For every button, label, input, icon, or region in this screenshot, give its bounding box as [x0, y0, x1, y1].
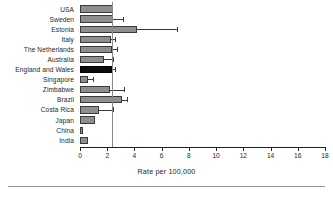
category-label: The Netherlands [0, 46, 74, 53]
x-axis-tick-label: 16 [294, 152, 301, 160]
x-axis-tick [298, 147, 299, 150]
error-bar-cap [113, 57, 114, 62]
error-bar [113, 19, 124, 20]
x-axis-tick-label: 18 [321, 152, 328, 160]
error-bar [88, 79, 93, 80]
bar [80, 15, 113, 22]
bar-track [80, 95, 325, 105]
bar-row: The Netherlands [0, 44, 333, 54]
bar-row: England and Wales [0, 65, 333, 75]
bar [80, 26, 137, 33]
bar-track [80, 85, 325, 95]
error-bar-cap [127, 97, 128, 102]
x-axis-tick-label: 8 [187, 152, 191, 160]
x-axis-tick [216, 147, 217, 150]
bar-track [80, 105, 325, 115]
error-bar [122, 99, 127, 100]
bar-track [80, 44, 325, 54]
category-label: Estonia [0, 26, 74, 33]
error-bar [137, 29, 178, 30]
bar-row: Brazil [0, 95, 333, 105]
category-label: Costa Rica [0, 106, 74, 113]
x-axis-tick [189, 147, 190, 150]
bar [80, 106, 99, 113]
category-label: England and Wales [0, 66, 74, 73]
bar [80, 137, 88, 144]
error-bar-cap [115, 37, 116, 42]
bar [80, 86, 110, 93]
bar [80, 127, 83, 134]
error-bar-cap [177, 27, 178, 32]
bar [80, 116, 95, 123]
footer-divider [8, 186, 325, 187]
bar-row: China [0, 125, 333, 135]
bar-track [80, 125, 325, 135]
bar-chart-figure: USASwedenEstoniaItalyThe NetherlandsAust… [0, 0, 333, 197]
bar [80, 76, 88, 83]
bar-row: Italy [0, 34, 333, 44]
bar-track [80, 14, 325, 24]
category-label: Zimbabwe [0, 86, 74, 93]
x-axis-tick-label: 2 [105, 152, 109, 160]
x-axis-tick-label: 12 [240, 152, 247, 160]
bar-row: Costa Rica [0, 105, 333, 115]
category-label: Singapore [0, 76, 74, 83]
category-label: China [0, 127, 74, 134]
x-axis-tick-label: 10 [212, 152, 219, 160]
bar-row: Australia [0, 54, 333, 64]
bar-rows: USASwedenEstoniaItalyThe NetherlandsAust… [0, 4, 333, 145]
bar [80, 96, 122, 103]
x-axis-tick [162, 147, 163, 150]
error-bar-cap [113, 107, 114, 112]
x-axis-line [80, 147, 325, 148]
x-axis-tick-label: 14 [267, 152, 274, 160]
category-label: Brazil [0, 96, 74, 103]
x-axis-tick-label: 0 [78, 152, 82, 160]
x-axis-tick [107, 147, 108, 150]
error-bar-cap [115, 67, 116, 72]
error-bar-line [137, 29, 178, 30]
x-axis-tick [243, 147, 244, 150]
category-label: USA [0, 6, 74, 13]
x-axis-tick [134, 147, 135, 150]
bar [80, 46, 112, 53]
error-bar-cap [123, 17, 124, 22]
bar-track [80, 65, 325, 75]
bar-track [80, 135, 325, 145]
bar-row: Singapore [0, 75, 333, 85]
error-bar-cap [117, 47, 118, 52]
bar-track [80, 54, 325, 64]
bar-row: Zimbabwe [0, 85, 333, 95]
x-axis-tick [325, 147, 326, 150]
bar-track [80, 4, 325, 14]
x-axis-tick-label: 4 [133, 152, 137, 160]
bar-row: Japan [0, 115, 333, 125]
bar-track [80, 115, 325, 125]
bar-track [80, 75, 325, 85]
category-label: Japan [0, 117, 74, 124]
x-axis-tick [271, 147, 272, 150]
plot-area: USASwedenEstoniaItalyThe NetherlandsAust… [0, 0, 333, 160]
category-label: Australia [0, 56, 74, 63]
bar-row: Sweden [0, 14, 333, 24]
bar [80, 36, 111, 43]
bar [80, 56, 104, 63]
category-label: Sweden [0, 16, 74, 23]
category-label: Italy [0, 36, 74, 43]
error-bar-cap [93, 77, 94, 82]
error-bar [112, 49, 118, 50]
category-label: India [0, 137, 74, 144]
bar-track [80, 34, 325, 44]
bar-track [80, 24, 325, 34]
bar-row: India [0, 135, 333, 145]
x-axis-tick [80, 147, 81, 150]
bar [80, 5, 113, 12]
reference-line [112, 2, 113, 147]
bar [80, 66, 112, 73]
x-axis-title: Rate per 100,000 [0, 167, 333, 176]
error-bar-cap [124, 87, 125, 92]
bar-row: USA [0, 4, 333, 14]
x-axis-tick-label: 6 [160, 152, 164, 160]
bar-row: Estonia [0, 24, 333, 34]
